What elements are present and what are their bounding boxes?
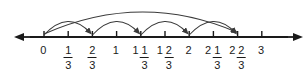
tick-label: 1 2 3 [157, 44, 174, 71]
fraction: 1 3 [140, 44, 149, 71]
fraction-denominator: 3 [214, 59, 220, 71]
tick-label-whole: 2 [205, 44, 213, 56]
tick-label: 2 1 3 [205, 44, 222, 71]
fraction-numerator: 1 [65, 44, 71, 56]
fraction: 1 3 [213, 44, 222, 71]
fraction-denominator: 3 [238, 59, 244, 71]
tick-label-whole: 1 [157, 44, 165, 56]
fraction-numerator: 2 [89, 44, 95, 56]
fraction-bar [213, 57, 222, 58]
tick-label-whole: 0 [40, 44, 48, 56]
tick-label: 3 [258, 44, 266, 56]
fraction-bar [140, 57, 149, 58]
fraction-numerator: 2 [238, 44, 244, 56]
tick-label: 1 [113, 44, 121, 56]
number-line-graphic [0, 0, 308, 84]
tick-label: 1 3 [64, 44, 73, 71]
fraction-bar [164, 57, 173, 58]
tick-label: 2 [185, 44, 193, 56]
fraction: 2 3 [164, 44, 173, 71]
fraction-denominator: 3 [89, 59, 95, 71]
tick-label-whole: 1 [132, 44, 140, 56]
fraction-numerator: 1 [214, 44, 220, 56]
fraction-numerator: 1 [142, 44, 148, 56]
fraction-numerator: 2 [166, 44, 172, 56]
jump-arc [141, 21, 188, 35]
fraction-bar [237, 57, 246, 58]
fraction-denominator: 3 [166, 59, 172, 71]
fraction: 2 3 [88, 44, 97, 71]
tick-label: 1 1 3 [132, 44, 149, 71]
tick-label-whole: 2 [229, 44, 237, 56]
fraction-bar [88, 57, 97, 58]
tick-label-whole: 1 [113, 44, 121, 56]
tick-label-whole: 2 [185, 44, 193, 56]
fraction-bar [64, 57, 73, 58]
fraction-denominator: 3 [142, 59, 148, 71]
tick-label: 2 3 [88, 44, 97, 71]
fraction-denominator: 3 [65, 59, 71, 71]
tick-label: 2 2 3 [229, 44, 246, 71]
fraction: 2 3 [237, 44, 246, 71]
number-line-figure: 0 1 3 2 3 1 1 1 3 1 2 3 2 [0, 0, 308, 84]
tick-label: 0 [40, 44, 48, 56]
jump-arc [92, 21, 138, 35]
jump-arc [44, 21, 91, 35]
fraction: 1 3 [64, 44, 73, 71]
tick-label-whole: 3 [258, 44, 266, 56]
